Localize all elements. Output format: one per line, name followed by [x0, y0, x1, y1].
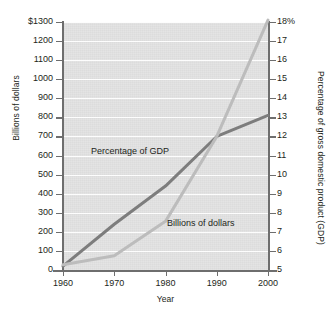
y-axis-left-tick: [56, 60, 62, 61]
y-axis-right-tick: [270, 270, 276, 271]
y-axis-right-tick: [270, 117, 276, 118]
y-axis-left-tick: [56, 270, 62, 271]
x-axis-tick: [166, 271, 167, 276]
y-axis-right-tick-label: 18%: [277, 16, 295, 26]
y-axis-left-tick-label: 1000: [0, 73, 56, 83]
x-axis-tick-label: 1980: [146, 278, 186, 288]
y-axis-right-tick: [270, 41, 276, 42]
y-axis-left-tick-label: $1300: [0, 16, 56, 26]
x-axis-tick-label: 1960: [43, 278, 83, 288]
y-axis-left-tick: [56, 175, 62, 176]
y-axis-right-tick: [270, 232, 276, 233]
y-axis-right-tick-label: 13: [277, 111, 287, 121]
y-axis-left-tick: [56, 251, 62, 252]
x-axis-tick-label: 2000: [248, 278, 288, 288]
y-axis-left-tick-label: 300: [0, 207, 56, 217]
y-axis-left-tick-label: 800: [0, 111, 56, 121]
x-axis-tick: [217, 271, 218, 276]
y-axis-left-tick: [56, 117, 62, 118]
y-axis-left-tick: [56, 79, 62, 80]
series-label-billions-of-dollars: Billions of dollars: [167, 218, 235, 228]
y-axis-right-tick-label: 12: [277, 130, 287, 140]
y-axis-right-tick-label: 10: [277, 169, 287, 179]
y-axis-left-tick-label: 900: [0, 92, 56, 102]
series-label-percentage-of-gdp: Percentage of GDP: [91, 146, 169, 156]
y-axis-right-tick: [270, 175, 276, 176]
x-axis-tick: [63, 271, 64, 276]
y-axis-left-tick: [56, 136, 62, 137]
y-axis-left-tick-label: 100: [0, 245, 56, 255]
y-axis-left-tick-label: 700: [0, 130, 56, 140]
y-axis-right-tick: [270, 79, 276, 80]
series-line-percentage-of-gdp: [63, 115, 268, 266]
y-axis-left-tick: [56, 232, 62, 233]
y-axis-left-tick: [56, 41, 62, 42]
y-axis-left-tick-label: 600: [0, 150, 56, 160]
y-axis-right-tick: [270, 136, 276, 137]
y-axis-right-tick-label: 5: [277, 264, 282, 274]
x-axis-tick: [268, 271, 269, 276]
y-axis-left-tick: [56, 22, 62, 23]
y-axis-left-tick: [56, 156, 62, 157]
y-axis-left-tick-label: 0: [0, 264, 56, 274]
y-axis-right-tick-label: 6: [277, 245, 282, 255]
chart-container: Billions of dollars Percentage of gross …: [0, 0, 328, 315]
y-axis-left-tick-label: 1100: [0, 54, 56, 64]
y-axis-right-title: Percentage of gross domestic product (GD…: [316, 23, 326, 293]
y-axis-right-tick-label: 15: [277, 73, 287, 83]
y-axis-left-tick-label: 500: [0, 169, 56, 179]
series-line-billions-of-dollars: [63, 20, 268, 265]
y-axis-right-tick: [270, 251, 276, 252]
y-axis-left-tick-label: 200: [0, 226, 56, 236]
y-axis-left-tick: [56, 98, 62, 99]
y-axis-right-tick: [270, 194, 276, 195]
y-axis-right-tick-label: 16: [277, 54, 287, 64]
y-axis-left-tick: [56, 194, 62, 195]
y-axis-right-tick: [270, 213, 276, 214]
y-axis-right-tick-label: 7: [277, 226, 282, 236]
y-axis-right-tick-label: 11: [277, 150, 286, 160]
y-axis-right-tick-label: 17: [277, 35, 287, 45]
y-axis-right-tick-label: 9: [277, 188, 282, 198]
y-axis-right-tick: [270, 60, 276, 61]
y-axis-right-tick-label: 14: [277, 92, 287, 102]
x-axis-tick: [114, 271, 115, 276]
y-axis-left-tick: [56, 213, 62, 214]
y-axis-right-tick: [270, 22, 276, 23]
x-axis-tick-label: 1970: [94, 278, 134, 288]
x-axis-tick-label: 1990: [197, 278, 237, 288]
y-axis-right-tick: [270, 98, 276, 99]
y-axis-right-tick: [270, 156, 276, 157]
x-axis-title: Year: [63, 294, 268, 304]
y-axis-right-tick-label: 8: [277, 207, 282, 217]
y-axis-left-tick-label: 1200: [0, 35, 56, 45]
y-axis-right-spine: [268, 21, 270, 271]
y-axis-left-tick-label: 400: [0, 188, 56, 198]
